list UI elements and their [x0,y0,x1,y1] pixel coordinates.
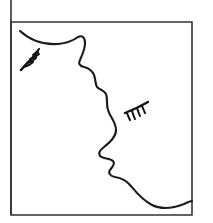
figure-svg [0,0,213,223]
canvas-background [0,0,213,223]
line-drawing-figure [0,0,213,223]
